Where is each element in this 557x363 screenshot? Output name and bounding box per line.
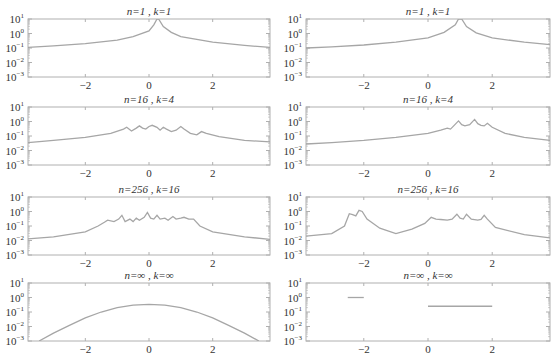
y-tick-label: 10−2 [6, 56, 25, 69]
y-tick-label: 10−3 [6, 334, 25, 347]
y-tick-label: 10−2 [284, 144, 303, 157]
panel-title: n=∞ , k=∞ [124, 269, 173, 281]
x-tick-label: −2 [79, 167, 91, 179]
x-tick-label: 2 [489, 257, 495, 269]
panel-6: 10110010−110−210−3−202n=256 , k=16 [284, 183, 550, 269]
y-tick-label: 10−2 [6, 144, 25, 157]
data-line [306, 210, 550, 238]
y-tick-label: 10−1 [284, 129, 303, 142]
y-tick-label: 10−3 [6, 158, 25, 171]
y-tick-label: 100 [288, 205, 303, 218]
axes-frame [28, 19, 270, 77]
x-tick-label: −2 [358, 257, 370, 269]
y-tick-label: 101 [10, 190, 25, 203]
y-tick-label: 10−3 [6, 70, 25, 83]
y-tick-label: 10−1 [6, 305, 25, 318]
y-tick-label: 10−2 [284, 320, 303, 333]
panel-title: n=1 , k=1 [127, 5, 171, 17]
y-tick-label: 101 [10, 12, 25, 25]
x-tick-label: −2 [79, 257, 91, 269]
x-tick-label: −2 [79, 79, 91, 91]
y-tick-label: 10−2 [284, 56, 303, 69]
x-tick-label: 0 [425, 167, 431, 179]
y-tick-label: 10−1 [284, 41, 303, 54]
y-tick-label: 100 [288, 27, 303, 40]
panel-title: n=256 , k=16 [119, 183, 180, 195]
data-line [28, 125, 270, 142]
x-tick-label: 2 [210, 257, 216, 269]
x-tick-label: 0 [425, 79, 431, 91]
x-tick-label: 2 [489, 167, 495, 179]
panel-title: n=∞ , k=∞ [403, 269, 452, 281]
data-line [306, 19, 550, 48]
y-tick-label: 10−2 [6, 234, 25, 247]
y-tick-label: 10−1 [284, 305, 303, 318]
x-tick-label: 0 [146, 167, 152, 179]
x-tick-label: 2 [210, 343, 216, 355]
axes-frame [28, 107, 270, 165]
y-tick-label: 101 [288, 276, 303, 289]
axes-frame [306, 283, 550, 341]
panel-7: 10110010−110−210−3−202n=∞ , k=∞ [6, 269, 270, 355]
x-tick-label: 2 [210, 79, 216, 91]
y-tick-label: 101 [288, 12, 303, 25]
y-tick-label: 10−1 [6, 129, 25, 142]
x-tick-label: 0 [146, 79, 152, 91]
y-tick-label: 100 [288, 115, 303, 128]
panel-title: n=16 , k=4 [124, 93, 174, 105]
panel-3: 10110010−110−210−3−202n=16 , k=4 [6, 93, 270, 179]
y-tick-label: 101 [10, 100, 25, 113]
y-tick-label: 101 [288, 100, 303, 113]
y-tick-label: 100 [288, 291, 303, 304]
y-tick-label: 10−2 [6, 320, 25, 333]
panel-4: 10110010−110−210−3−202n=16 , k=4 [284, 93, 550, 179]
figure: 10110010−110−210−3−202n=1 , k=110110010−… [0, 0, 557, 363]
data-line [28, 213, 270, 240]
y-tick-label: 10−1 [284, 219, 303, 232]
panel-5: 10110010−110−210−3−202n=256 , k=16 [6, 183, 270, 269]
y-tick-label: 100 [10, 205, 25, 218]
x-tick-label: 0 [425, 257, 431, 269]
y-tick-label: 10−3 [284, 70, 303, 83]
axes-frame [306, 19, 550, 77]
y-tick-label: 101 [10, 276, 25, 289]
data-line [39, 304, 259, 341]
y-tick-label: 10−1 [6, 219, 25, 232]
x-tick-label: 0 [425, 343, 431, 355]
data-line [28, 19, 270, 47]
x-tick-label: −2 [79, 343, 91, 355]
y-tick-label: 100 [10, 115, 25, 128]
y-tick-label: 10−3 [6, 248, 25, 261]
axes-frame [306, 107, 550, 165]
y-tick-label: 10−2 [284, 234, 303, 247]
x-tick-label: −2 [358, 167, 370, 179]
panel-8: 10110010−110−210−3−202n=∞ , k=∞ [284, 269, 550, 355]
y-tick-label: 100 [10, 291, 25, 304]
axes-frame [28, 197, 270, 255]
axes-frame [306, 197, 550, 255]
x-tick-label: −2 [358, 343, 370, 355]
x-tick-label: 2 [489, 343, 495, 355]
panel-title: n=16 , k=4 [403, 93, 453, 105]
panel-2: 10110010−110−210−3−202n=1 , k=1 [284, 5, 550, 91]
data-line [306, 119, 550, 144]
panel-title: n=256 , k=16 [398, 183, 459, 195]
y-tick-label: 101 [288, 190, 303, 203]
x-tick-label: 2 [489, 79, 495, 91]
y-tick-label: 100 [10, 27, 25, 40]
x-tick-label: −2 [358, 79, 370, 91]
axes-frame [28, 283, 270, 341]
y-tick-label: 10−3 [284, 334, 303, 347]
panel-title: n=1 , k=1 [406, 5, 450, 17]
x-tick-label: 0 [146, 257, 152, 269]
y-tick-label: 10−3 [284, 248, 303, 261]
panel-1: 10110010−110−210−3−202n=1 , k=1 [6, 5, 270, 91]
y-tick-label: 10−1 [6, 41, 25, 54]
x-tick-label: 0 [146, 343, 152, 355]
y-tick-label: 10−3 [284, 158, 303, 171]
x-tick-label: 2 [210, 167, 216, 179]
